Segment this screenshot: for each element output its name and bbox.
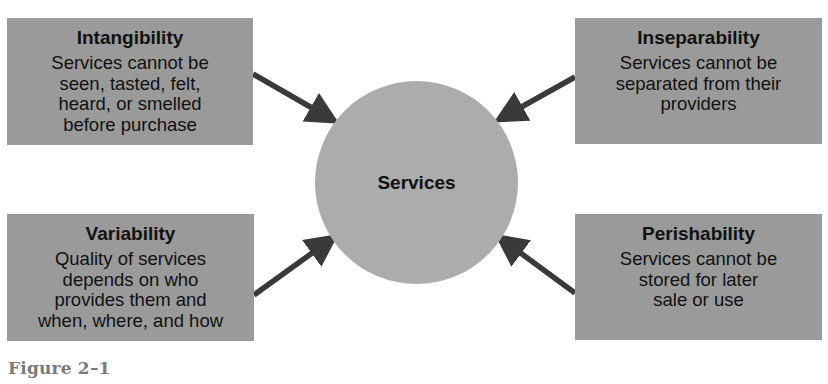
box-description: Services cannot be seen, tasted, felt, h…	[7, 53, 253, 135]
box-description: Services cannot be separated from their …	[575, 53, 822, 115]
box-intangibility: Intangibility Services cannot be seen, t…	[7, 18, 253, 145]
box-description: Services cannot be stored for later sale…	[575, 249, 822, 311]
center-circle-services: Services	[315, 81, 518, 284]
center-label: Services	[377, 172, 455, 194]
arrow-inseparability	[507, 77, 575, 115]
box-description: Quality of services depends on who provi…	[7, 249, 254, 331]
arrow-intangibility	[253, 74, 326, 116]
box-perishability: Perishability Services cannot be stored …	[575, 214, 822, 340]
box-inseparability: Inseparability Services cannot be separa…	[575, 18, 822, 144]
box-title: Variability	[7, 223, 254, 245]
arrow-variability	[254, 243, 326, 295]
arrow-perishability	[507, 243, 575, 293]
services-characteristics-diagram: Intangibility Services cannot be seen, t…	[0, 0, 828, 384]
figure-caption: Figure 2–1	[8, 358, 111, 378]
box-title: Perishability	[575, 223, 822, 245]
box-title: Inseparability	[575, 27, 822, 49]
box-variability: Variability Quality of services depends …	[7, 214, 254, 341]
box-title: Intangibility	[7, 27, 253, 49]
